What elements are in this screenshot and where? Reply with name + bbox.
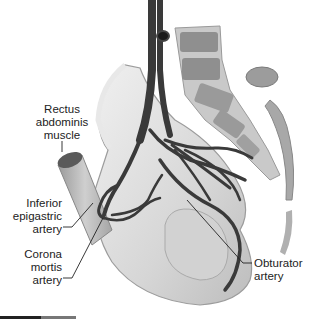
- anatomical-illustration: Rectus abdominis muscle Inferior epigast…: [0, 0, 311, 319]
- label-rectus-abdominis-muscle: Rectus abdominis muscle: [31, 103, 93, 142]
- label-inferior-epigastric-artery: Inferior epigastric artery: [0, 197, 62, 236]
- label-corona-mortis-artery: Corona mortis artery: [0, 248, 62, 287]
- label-obturator-artery: Obturator artery: [254, 257, 311, 283]
